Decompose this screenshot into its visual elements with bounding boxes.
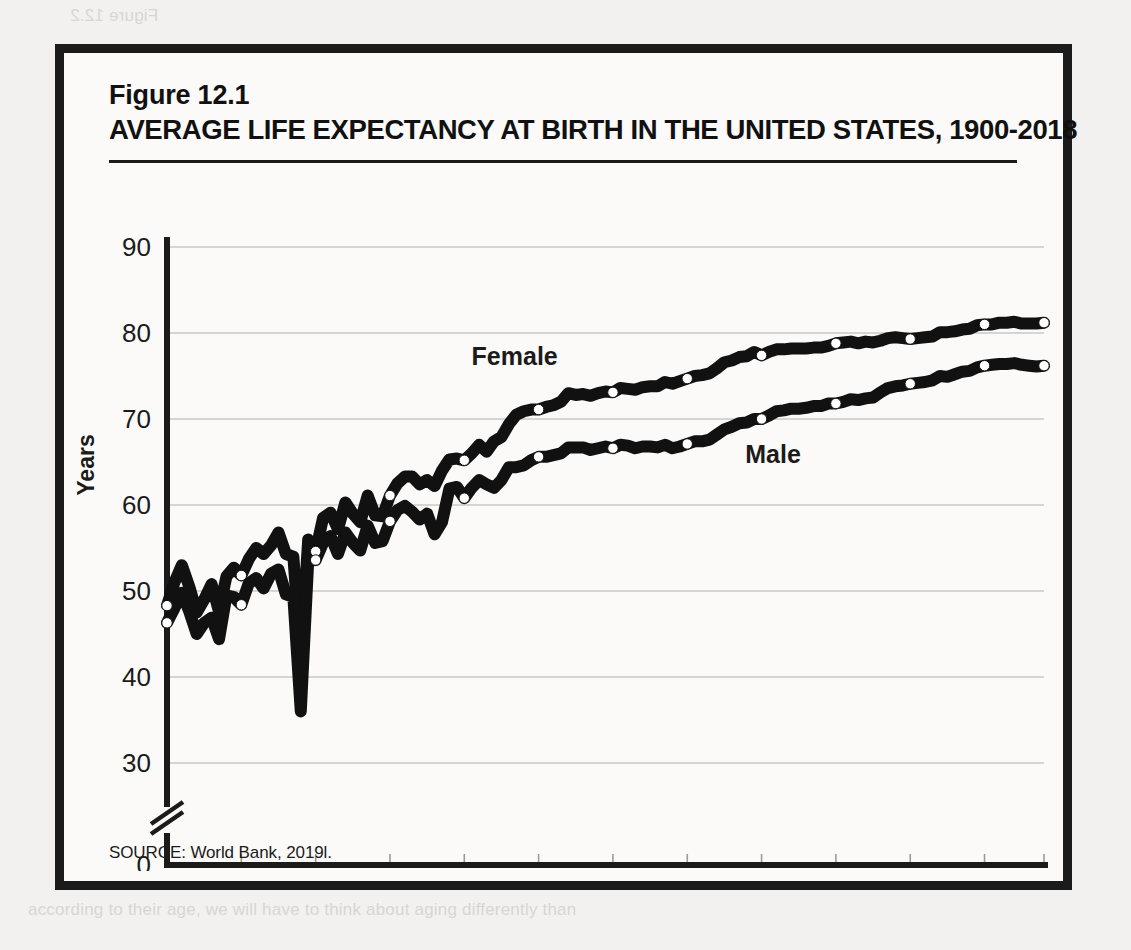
y-tick-label: 30 (122, 748, 151, 778)
page-bleed-bottom: according to their age, we will have to … (0, 896, 1131, 950)
y-tick-label: 50 (122, 576, 151, 606)
bleed-top-text: Figure 12.2 (70, 2, 158, 30)
y-axis-title: Years (73, 434, 99, 495)
figure-title: AVERAGE LIFE EXPECTANCY AT BIRTH IN THE … (109, 114, 1077, 146)
y-tick-label: 90 (122, 232, 151, 262)
y-axis-tick-labels: 030405060708090 (122, 232, 151, 871)
y-tick-label: 80 (122, 318, 151, 348)
figure-number: Figure 12.1 (109, 80, 249, 111)
source-note: SOURCE: World Bank, 2019l. (109, 843, 332, 863)
y-tick-label: 40 (122, 662, 151, 692)
series-label-female: Female (472, 342, 558, 370)
series-label-male: Male (745, 440, 801, 468)
y-tick-label: 60 (122, 490, 151, 520)
figure-frame: Figure 12.1 AVERAGE LIFE EXPECTANCY AT B… (55, 44, 1072, 890)
y-tick-label: 70 (122, 404, 151, 434)
figure-inner: Figure 12.1 AVERAGE LIFE EXPECTANCY AT B… (64, 53, 1063, 881)
axis-lines (164, 237, 1048, 865)
bleed-bottom-text: according to their age, we will have to … (28, 900, 576, 919)
page-bleed-top: Figure 12.2 (0, 2, 1131, 42)
line-chart: 030405060708090 190019101920193019401950… (64, 171, 1063, 871)
title-divider (109, 160, 1017, 163)
y-axis-title-text: Years (73, 434, 99, 495)
